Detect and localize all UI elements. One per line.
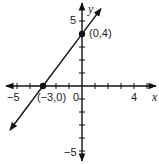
x-axis (6, 83, 156, 89)
x-tick-label-4: 4 (131, 91, 137, 103)
coordinate-plane: y x 5 −5 −5 0 4 (−3,0) (0,4) (0, 0, 159, 164)
x-tick-label-neg5: −5 (7, 91, 20, 103)
point-neg3-0 (40, 83, 46, 89)
point-label-0-4: (0,4) (89, 27, 112, 39)
y-tick-label-neg5: −5 (64, 146, 77, 158)
y-tick-label-5: 5 (70, 14, 76, 26)
y-axis-label: y (87, 2, 94, 16)
y-axis (79, 3, 85, 161)
point-0-4 (79, 31, 85, 37)
point-label-neg3-0: (−3,0) (37, 91, 66, 103)
x-axis-label: x (151, 90, 158, 104)
origin-label: 0 (73, 91, 79, 103)
plotted-line (10, 9, 101, 130)
